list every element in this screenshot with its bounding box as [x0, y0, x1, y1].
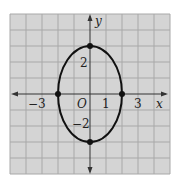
origin-label: O: [77, 97, 87, 111]
covertex-right-point: [119, 91, 125, 97]
x-tick-label-1: 1: [102, 97, 110, 111]
coordinate-plane: y x O −3 1 3 2 −2: [0, 0, 179, 179]
x-tick-label-neg3: −3: [28, 97, 46, 111]
y-tick-label-neg2: −2: [72, 117, 90, 131]
x-axis-label: x: [156, 97, 163, 111]
x-tick-label-3: 3: [134, 97, 142, 111]
vertex-top-point: [87, 43, 93, 49]
vertex-bottom-point: [87, 139, 93, 145]
y-axis-label: y: [94, 14, 102, 28]
covertex-left-point: [55, 91, 61, 97]
y-tick-label-2: 2: [80, 56, 88, 70]
